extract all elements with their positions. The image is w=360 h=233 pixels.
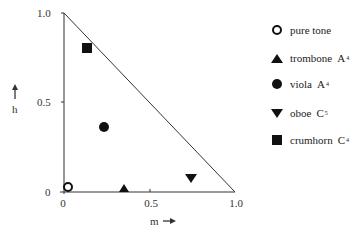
open-circle-icon [270, 23, 284, 37]
point-pure-tone [64, 183, 72, 191]
triangle-down-icon [270, 106, 284, 120]
legend-note-sub: 4 [346, 55, 349, 61]
filled-circle-icon [270, 77, 284, 91]
boundary-line [64, 13, 235, 192]
y-axis-label: h [12, 103, 18, 115]
square-icon [270, 133, 284, 147]
legend-note-sub: 4 [346, 137, 349, 143]
legend-label: viola [290, 78, 312, 90]
triangle-up-icon [270, 51, 284, 65]
legend-note: A [317, 78, 325, 90]
legend-label: crumhorn [290, 134, 333, 146]
legend-note: C [316, 107, 323, 119]
legend-item-trombone: trombone A4 [270, 50, 349, 66]
legend-label: trombone [290, 52, 332, 64]
legend-note: C [338, 134, 345, 146]
legend-item-crumhorn: crumhorn C4 [270, 132, 349, 148]
point-oboe [185, 174, 197, 183]
legend-item-pure-tone: pure tone [270, 22, 331, 38]
point-crumhorn [82, 43, 92, 53]
legend-note-sub: 4 [326, 81, 329, 87]
y-tick-label: 0 [45, 186, 51, 198]
legend-label: oboe [290, 107, 311, 119]
legend-item-viola: viola A4 [270, 76, 329, 92]
legend-label: pure tone [290, 24, 331, 36]
y-tick-label: 1.0 [37, 7, 51, 19]
legend-item-oboe: oboe C5 [270, 105, 328, 121]
legend-note: A [337, 52, 345, 64]
x-axis-label: m [150, 215, 159, 227]
up-arrow-icon [12, 84, 18, 99]
y-tick-label: 0.5 [37, 96, 51, 108]
x-tick-label: 0.5 [144, 197, 158, 209]
point-viola [99, 122, 109, 132]
legend-note-sub: 5 [325, 110, 328, 116]
point-trombone [119, 184, 129, 192]
x-tick-label: 0 [60, 197, 66, 209]
x-tick-label: 1.0 [229, 197, 243, 209]
right-arrow-icon [163, 218, 176, 224]
